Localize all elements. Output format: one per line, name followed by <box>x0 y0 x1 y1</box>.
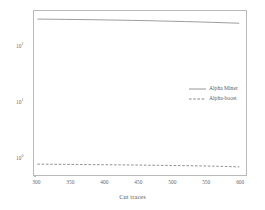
x-tick-label: 350 <box>66 180 74 185</box>
series-line-alpha-miner <box>37 19 239 23</box>
x-tick-label: 600 <box>236 180 244 185</box>
legend-swatch-solid-icon <box>189 86 206 92</box>
y-tick-minor <box>34 176 36 177</box>
legend-item-alpha-miner: Alpha Miner <box>189 84 251 94</box>
x-tick-label: 400 <box>100 180 108 185</box>
y-tick-label: 102 <box>16 44 23 49</box>
legend-item-alpha-boost: Alpha-boost <box>189 94 251 104</box>
x-tick-label: 550 <box>202 180 210 185</box>
y-tick-label: 101 <box>16 100 23 105</box>
legend-swatch-dashed-icon <box>189 96 206 102</box>
legend-label-alpha-miner: Alpha Miner <box>209 86 238 92</box>
chart-figure: 100101102 300350400450500550600 Cut trac… <box>0 0 265 210</box>
x-tick-label: 450 <box>134 180 142 185</box>
legend-label-alpha-boost: Alpha-boost <box>209 96 237 102</box>
chart-legend: Alpha Miner Alpha-boost <box>189 84 251 104</box>
x-axis-label: Cut traces <box>0 193 265 200</box>
x-tick-label: 500 <box>168 180 176 185</box>
y-tick-label: 100 <box>16 156 23 161</box>
x-tick-label: 300 <box>32 180 40 185</box>
series-line-alpha-boost <box>37 164 239 167</box>
